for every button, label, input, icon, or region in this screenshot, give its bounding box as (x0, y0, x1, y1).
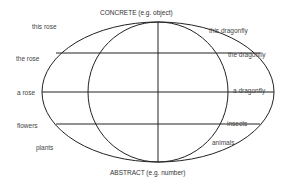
left-label-flowers: flowers (17, 123, 38, 130)
left-label-plants: plants (36, 145, 53, 152)
right-label-a-dragonfly: a dragonfly (233, 88, 265, 95)
left-label-this-rose: this rose (32, 24, 57, 31)
left-label-a-rose: a rose (17, 90, 35, 97)
left-label-the-rose: the rose (16, 56, 40, 63)
top-axis-label: CONCRETE (e.g. object) (100, 10, 173, 17)
right-label-the-dragonfly: the dragonfly (228, 52, 266, 59)
right-label-animals: animals (212, 140, 234, 147)
right-label-insects: insects (227, 121, 247, 128)
right-label-this-dragonfly: this dragonfly (209, 28, 248, 35)
bottom-axis-label: ABSTRACT (e.g. number) (110, 170, 185, 177)
